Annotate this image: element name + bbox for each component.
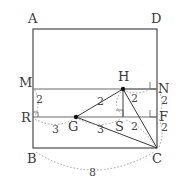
vertex-label-d: D [151,12,161,25]
vertex-label-a: A [28,12,37,25]
measure-label-gs: 3 [97,124,104,135]
measure-label-nf: 2 [161,95,168,106]
geometry-diagram: A D B C M N R F H G S 2 2 2 2 2 2 3 3 8 [0,0,184,190]
segment-hc [123,89,157,148]
vertex-label-g: G [68,120,78,133]
measure-label-mr: 2 [36,94,43,105]
right-angle-s [116,110,123,117]
measure-label-sc: 2 [131,121,138,132]
measure-label-rg: 3 [52,124,59,135]
point-h-marker [121,87,125,91]
measure-label-hn: 2 [131,93,138,104]
right-angle-n [150,82,157,89]
measure-label-gh: 2 [97,96,104,107]
measure-label-bc: 8 [89,167,96,178]
vertex-label-s: S [115,120,124,133]
vertex-label-m: M [19,76,32,89]
vertex-label-b: B [27,152,37,165]
vertex-label-c: C [152,152,162,165]
right-angle-f [150,110,157,117]
measure-label-fc: 2 [161,122,168,133]
vertex-label-r: R [21,111,31,124]
vertex-label-h: H [118,70,129,83]
arc-gh [117,92,122,114]
